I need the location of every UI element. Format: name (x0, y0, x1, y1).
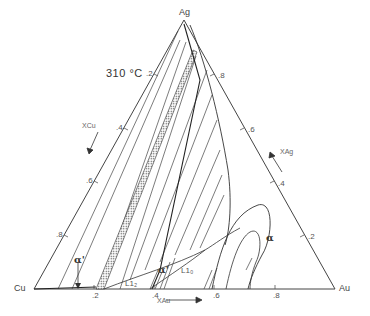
phase-label-alpha: α (266, 233, 274, 243)
vertex-label-cu: Cu (14, 284, 26, 293)
ordered-phase-loop-outer (212, 205, 270, 289)
left-tick-label: .4 (116, 124, 123, 132)
right-axis-ticks (210, 74, 304, 237)
phase-label-l12: L1₂ (125, 280, 137, 288)
bottom-tick-label: .8 (273, 292, 280, 300)
axis-label-xcu: XCu (82, 122, 96, 129)
phase-label-alpha-prime-inner: α' (158, 265, 169, 275)
left-axis-ticks (64, 74, 158, 237)
bottom-tick-label: .2 (92, 292, 99, 300)
phase-label-alpha-prime: α' (74, 255, 85, 265)
vertex-label-au: Au (339, 284, 350, 293)
left-tick-label: .2 (146, 70, 153, 78)
phase-label-l10: L1₀ (181, 267, 193, 275)
axis-label-xag: XAg (280, 148, 293, 155)
alpha-solvus-curve (190, 25, 230, 245)
right-tick-label: .4 (278, 180, 285, 188)
axis-arrows (87, 132, 282, 303)
left-tick-label: .8 (56, 231, 63, 239)
bottom-tick-label: .6 (213, 292, 220, 300)
right-tick-label: .6 (248, 126, 255, 134)
vertex-label-ag: Ag (179, 8, 190, 17)
ordered-phase-loop-inner (226, 231, 260, 289)
left-tick-label: .6 (86, 177, 93, 185)
right-tick-label: .8 (218, 72, 225, 80)
two-phase-band-hatched (96, 50, 197, 289)
right-tick-label: .2 (308, 233, 315, 241)
axis-label-xau: XAu (157, 297, 170, 304)
temperature-label: 310 °C (106, 68, 143, 79)
